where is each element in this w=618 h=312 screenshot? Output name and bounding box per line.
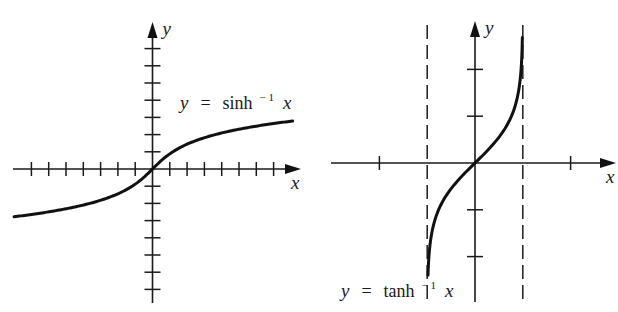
label-lhs: y (178, 92, 189, 113)
chart-canvas: x y y = sinh − 1 x x y y = tanh − 1 x (0, 0, 618, 312)
curve-label-inverse-sinh: y = sinh − 1 x (178, 87, 292, 113)
x-axis-label: x (605, 166, 615, 187)
y-axis-label: y (483, 17, 494, 38)
x-axis-label: x (290, 172, 300, 193)
label-arg: x (444, 280, 454, 301)
plot-inverse-tanh: x y y = tanh − 1 x (331, 17, 616, 302)
label-equals: = (361, 281, 371, 301)
label-superscript: − 1 (260, 91, 274, 103)
label-equals: = (200, 93, 210, 113)
label-function: tanh (384, 281, 415, 301)
y-axis-arrow-icon (148, 22, 158, 38)
label-lhs: y (339, 280, 350, 301)
label-superscript: − 1 (422, 279, 436, 291)
y-axis-arrow-icon (470, 21, 480, 37)
label-function: sinh (223, 93, 253, 113)
label-arg: x (282, 92, 292, 113)
y-axis-label: y (161, 18, 172, 39)
curve-label-inverse-tanh: y = tanh − 1 x (339, 275, 454, 301)
plot-inverse-sinh: x y y = sinh − 1 x (13, 18, 301, 303)
